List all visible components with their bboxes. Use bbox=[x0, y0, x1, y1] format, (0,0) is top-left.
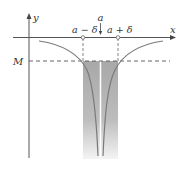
infinite-limit-diagram: y x a a − δ a + δ M bbox=[0, 0, 181, 170]
x-axis-label: x bbox=[170, 24, 176, 35]
arrow-a-head-icon bbox=[99, 31, 102, 35]
y-axis-label: y bbox=[32, 12, 39, 23]
label-m: M bbox=[12, 56, 24, 67]
open-point-a-plus-delta bbox=[116, 36, 120, 40]
label-a-plus-delta: a + δ bbox=[107, 24, 133, 35]
y-axis-arrow-icon bbox=[27, 13, 32, 19]
label-a-minus-delta: a − δ bbox=[72, 24, 98, 35]
x-axis-arrow-icon bbox=[170, 35, 176, 40]
open-point-a-minus-delta bbox=[81, 36, 85, 40]
label-a: a bbox=[98, 12, 104, 23]
